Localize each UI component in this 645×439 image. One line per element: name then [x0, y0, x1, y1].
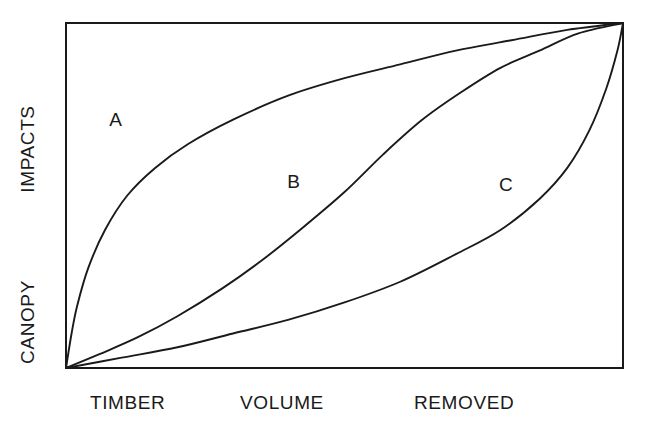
curve-label-c: C: [499, 174, 513, 196]
x-axis-label-word-timber: TIMBER: [90, 392, 165, 414]
plot-area: [0, 0, 645, 439]
y-axis-label-canopy: CANOPY: [17, 272, 39, 372]
chart-figure: IMPACTS CANOPY TIMBER VOLUME REMOVED A B…: [0, 0, 645, 439]
curve-label-b: B: [287, 171, 300, 193]
x-axis-label-word-removed: REMOVED: [414, 392, 514, 414]
plot-frame-border: [66, 23, 623, 368]
y-axis-label-impacts: IMPACTS: [17, 94, 39, 204]
x-axis-label-word-volume: VOLUME: [240, 392, 324, 414]
curve-label-a: A: [109, 109, 122, 131]
